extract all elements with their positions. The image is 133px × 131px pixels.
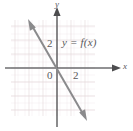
function-label: y = f(x)	[62, 37, 97, 48]
origin-tick-label: 0	[47, 70, 53, 81]
y-tick-label-2: 2	[47, 38, 53, 49]
x-axis	[5, 64, 121, 71]
x-tick-label-2: 2	[73, 70, 79, 81]
y-axis	[53, 7, 60, 127]
y-axis-label: y	[55, 0, 59, 9]
plot-canvas	[0, 0, 133, 131]
graph-figure: y = f(x) x y 2 0 2	[0, 0, 133, 131]
x-axis-label: x	[123, 62, 127, 71]
